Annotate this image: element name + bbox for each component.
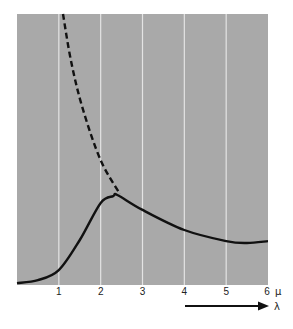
x-tick-label: 6 (264, 286, 270, 297)
x-tick-label: 1 (56, 286, 62, 297)
x-tick-label: 5 (223, 286, 229, 297)
x-tick-labels: 123456 (56, 286, 270, 297)
x-tick-label: 3 (140, 286, 146, 297)
wavelength-arrow (185, 302, 269, 311)
x-unit-label: μ (275, 286, 282, 297)
arrow-head-icon (258, 302, 269, 311)
chart: 123456 μ λ (0, 0, 293, 329)
x-tick-label: 2 (98, 286, 104, 297)
x-axis-label: λ (274, 301, 280, 312)
x-tick-label: 4 (182, 286, 188, 297)
